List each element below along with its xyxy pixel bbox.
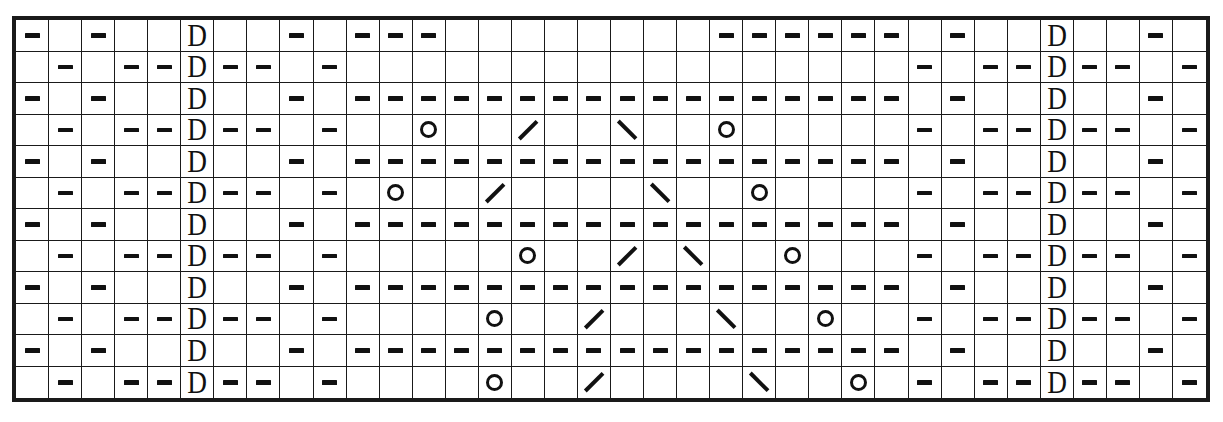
- chart-cell[interactable]: [942, 83, 975, 115]
- chart-cell[interactable]: [148, 335, 181, 367]
- chart-cell[interactable]: [809, 83, 842, 115]
- chart-cell[interactable]: [512, 83, 545, 115]
- chart-cell[interactable]: D: [1041, 178, 1074, 210]
- chart-cell[interactable]: [975, 304, 1008, 336]
- chart-cell[interactable]: [479, 83, 512, 115]
- chart-cell[interactable]: D: [181, 20, 214, 52]
- chart-cell[interactable]: [942, 178, 975, 210]
- chart-cell[interactable]: [148, 20, 181, 52]
- chart-cell[interactable]: [115, 146, 148, 178]
- chart-cell[interactable]: [809, 178, 842, 210]
- chart-cell[interactable]: [842, 52, 875, 84]
- chart-cell[interactable]: [446, 272, 479, 304]
- chart-cell[interactable]: [280, 241, 313, 273]
- chart-cell[interactable]: [82, 209, 115, 241]
- chart-cell[interactable]: [710, 146, 743, 178]
- chart-cell[interactable]: [49, 304, 82, 336]
- chart-cell[interactable]: [942, 20, 975, 52]
- chart-cell[interactable]: [1107, 83, 1140, 115]
- chart-cell[interactable]: [16, 115, 49, 147]
- chart-cell[interactable]: [247, 20, 280, 52]
- chart-cell[interactable]: [677, 83, 710, 115]
- chart-cell[interactable]: [909, 146, 942, 178]
- chart-cell[interactable]: [942, 146, 975, 178]
- chart-cell[interactable]: [975, 209, 1008, 241]
- chart-cell[interactable]: [1074, 241, 1107, 273]
- chart-cell[interactable]: [347, 146, 380, 178]
- chart-cell[interactable]: [347, 335, 380, 367]
- chart-cell[interactable]: [809, 52, 842, 84]
- chart-cell[interactable]: [909, 272, 942, 304]
- chart-cell[interactable]: [942, 304, 975, 336]
- chart-cell[interactable]: [1008, 83, 1041, 115]
- chart-cell[interactable]: [1107, 209, 1140, 241]
- chart-cell[interactable]: [214, 115, 247, 147]
- chart-cell[interactable]: [1140, 20, 1173, 52]
- chart-cell[interactable]: [578, 304, 611, 336]
- chart-cell[interactable]: [1140, 367, 1173, 399]
- chart-cell[interactable]: [743, 367, 776, 399]
- chart-cell[interactable]: [49, 367, 82, 399]
- chart-cell[interactable]: [743, 272, 776, 304]
- chart-cell[interactable]: [1074, 304, 1107, 336]
- chart-cell[interactable]: [347, 83, 380, 115]
- chart-cell[interactable]: [875, 304, 908, 336]
- chart-cell[interactable]: [413, 241, 446, 273]
- chart-cell[interactable]: [677, 241, 710, 273]
- chart-cell[interactable]: [875, 209, 908, 241]
- chart-cell[interactable]: [611, 83, 644, 115]
- chart-cell[interactable]: [1107, 178, 1140, 210]
- chart-cell[interactable]: [49, 146, 82, 178]
- chart-cell[interactable]: [247, 178, 280, 210]
- chart-cell[interactable]: [148, 367, 181, 399]
- chart-cell[interactable]: [148, 241, 181, 273]
- chart-cell[interactable]: D: [181, 83, 214, 115]
- chart-cell[interactable]: [1074, 83, 1107, 115]
- chart-cell[interactable]: [578, 209, 611, 241]
- chart-cell[interactable]: [809, 146, 842, 178]
- chart-cell[interactable]: [842, 241, 875, 273]
- chart-cell[interactable]: [1173, 272, 1206, 304]
- chart-cell[interactable]: [280, 115, 313, 147]
- chart-cell[interactable]: [644, 241, 677, 273]
- chart-cell[interactable]: [644, 52, 677, 84]
- chart-cell[interactable]: [743, 209, 776, 241]
- chart-cell[interactable]: [842, 335, 875, 367]
- chart-cell[interactable]: [82, 335, 115, 367]
- chart-cell[interactable]: [446, 241, 479, 273]
- chart-cell[interactable]: [942, 367, 975, 399]
- chart-cell[interactable]: [148, 146, 181, 178]
- chart-cell[interactable]: [413, 115, 446, 147]
- chart-cell[interactable]: [82, 241, 115, 273]
- chart-cell[interactable]: [115, 272, 148, 304]
- chart-cell[interactable]: [280, 178, 313, 210]
- chart-cell[interactable]: [875, 52, 908, 84]
- chart-cell[interactable]: [578, 146, 611, 178]
- chart-cell[interactable]: [247, 209, 280, 241]
- chart-cell[interactable]: [578, 272, 611, 304]
- chart-cell[interactable]: [710, 52, 743, 84]
- chart-cell[interactable]: [446, 367, 479, 399]
- chart-cell[interactable]: [578, 241, 611, 273]
- chart-cell[interactable]: [82, 272, 115, 304]
- chart-cell[interactable]: [214, 83, 247, 115]
- chart-cell[interactable]: [280, 335, 313, 367]
- chart-cell[interactable]: [644, 178, 677, 210]
- chart-cell[interactable]: [446, 209, 479, 241]
- chart-cell[interactable]: [809, 115, 842, 147]
- chart-cell[interactable]: [578, 115, 611, 147]
- chart-cell[interactable]: [347, 52, 380, 84]
- chart-cell[interactable]: [314, 146, 347, 178]
- chart-cell[interactable]: [1173, 52, 1206, 84]
- chart-cell[interactable]: [247, 83, 280, 115]
- chart-cell[interactable]: [347, 115, 380, 147]
- chart-cell[interactable]: [314, 20, 347, 52]
- chart-cell[interactable]: [280, 209, 313, 241]
- chart-cell[interactable]: [1173, 115, 1206, 147]
- chart-cell[interactable]: D: [1041, 83, 1074, 115]
- chart-cell[interactable]: [545, 115, 578, 147]
- chart-cell[interactable]: [380, 209, 413, 241]
- chart-cell[interactable]: [82, 115, 115, 147]
- chart-cell[interactable]: [1173, 209, 1206, 241]
- chart-cell[interactable]: [1008, 209, 1041, 241]
